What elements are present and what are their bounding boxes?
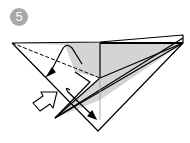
push-arrow-icon [33,92,57,111]
origami-diagram [0,0,190,143]
